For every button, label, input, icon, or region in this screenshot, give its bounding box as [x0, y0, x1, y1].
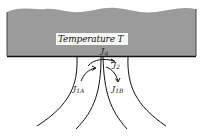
flow-line-outer-right	[128, 57, 166, 126]
label-jq: Jq	[101, 47, 108, 56]
temperature-label: Temperature T	[58, 34, 123, 44]
label-j1b: J1B	[112, 85, 123, 94]
flow-line-outer-left	[37, 57, 77, 126]
label-j1a: J1A	[73, 85, 84, 94]
diagram-graphics	[0, 0, 206, 136]
diagram-canvas: Temperature T Jq J2 J1A J1B	[0, 0, 206, 136]
label-j2: J2	[113, 61, 120, 70]
